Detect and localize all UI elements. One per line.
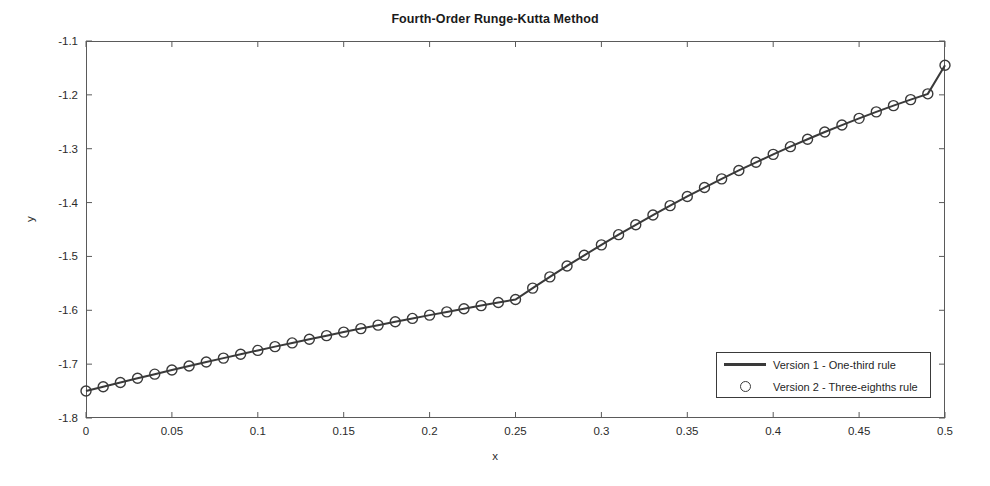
legend-label: Version 1 - One-third rule [773, 359, 896, 371]
x-tick-label: 0.05 [142, 425, 202, 437]
x-tick-label: 0.1 [228, 425, 288, 437]
y-tick-label: -1.8 [32, 412, 78, 424]
chart-title: Fourth-Order Runge-Kutta Method [0, 12, 990, 26]
legend-item-version-1[interactable]: Version 1 - One-third rule [717, 353, 932, 376]
x-axis-label: x [0, 450, 990, 462]
y-tick-label: -1.2 [32, 89, 78, 101]
y-tick-label: -1.5 [32, 250, 78, 262]
x-tick-label: 0.35 [657, 425, 717, 437]
x-tick-label: 0.45 [829, 425, 889, 437]
legend-label: Version 2 - Three-eighths rule [773, 381, 918, 393]
x-tick-label: 0.4 [743, 425, 803, 437]
y-tick-label: -1.4 [32, 197, 78, 209]
legend-item-version-2[interactable]: Version 2 - Three-eighths rule [717, 375, 932, 398]
y-axis-label: y [24, 216, 36, 222]
y-tick-label: -1.7 [32, 358, 78, 370]
legend-line-icon [717, 353, 773, 376]
legend[interactable]: Version 1 - One-third rule Version 2 - T… [716, 352, 931, 398]
y-tick-label: -1.3 [32, 143, 78, 155]
x-tick-label: 0.25 [486, 425, 546, 437]
x-tick-label: 0.3 [571, 425, 631, 437]
y-tick-label: -1.6 [32, 304, 78, 316]
x-tick-label: 0.5 [915, 425, 975, 437]
legend-circle-icon [717, 375, 773, 398]
x-tick-label: 0 [56, 425, 116, 437]
x-tick-label: 0.2 [400, 425, 460, 437]
y-tick-label: -1.1 [32, 35, 78, 47]
x-tick-label: 0.15 [314, 425, 374, 437]
figure-canvas: Fourth-Order Runge-Kutta Method -1.1-1.2… [0, 0, 990, 486]
